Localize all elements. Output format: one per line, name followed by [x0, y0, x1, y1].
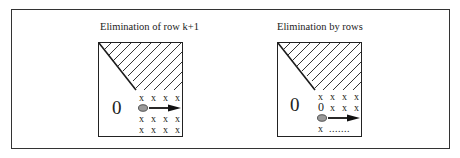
- svg-text:x: x: [151, 113, 156, 124]
- svg-text:x: x: [330, 91, 335, 102]
- panel-title-row-elimination: Elimination of row k+1: [100, 21, 199, 32]
- svg-text:x: x: [151, 92, 156, 103]
- svg-text:x: x: [354, 91, 359, 102]
- svg-text:x: x: [151, 124, 156, 135]
- svg-text:x: x: [175, 124, 180, 135]
- eliminated-zero: 0: [318, 100, 324, 114]
- pivot-element-icon: [318, 115, 327, 122]
- svg-text:x: x: [330, 102, 335, 113]
- svg-text:x: x: [354, 102, 359, 113]
- svg-text:x: x: [175, 113, 180, 124]
- svg-text:x: x: [342, 91, 347, 102]
- zero-region-label: 0: [290, 94, 300, 115]
- row-4: x .......: [318, 123, 350, 134]
- svg-text:x: x: [163, 92, 168, 103]
- matrix-panel-by-rows: 0 x x x x 0 x x x x .......: [277, 42, 363, 138]
- figure-frame: [11, 9, 450, 149]
- svg-text:x: x: [139, 92, 144, 103]
- pivot-element-icon: [139, 105, 148, 112]
- svg-text:x: x: [175, 92, 180, 103]
- svg-text:x: x: [342, 102, 347, 113]
- svg-text:x: x: [318, 123, 323, 134]
- panel-title-by-rows: Elimination by rows: [277, 21, 363, 32]
- svg-text:x: x: [163, 113, 168, 124]
- svg-text:x: x: [139, 124, 144, 135]
- svg-text:x: x: [163, 124, 168, 135]
- matrix-panel-row-k1: 0 x x x x x x x x x x x x: [98, 42, 184, 138]
- zero-region-label: 0: [112, 97, 122, 118]
- svg-text:x: x: [139, 113, 144, 124]
- continuation-dots: .......: [329, 123, 350, 134]
